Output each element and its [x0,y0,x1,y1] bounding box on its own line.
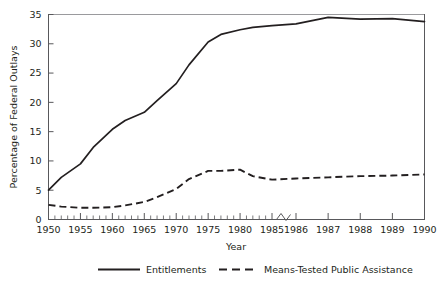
y-tick-label: 20 [29,97,41,108]
x-tick-label: 1987 [316,224,340,235]
x-axis-tick-labels: 1950195519601965197019751980198519861987… [36,224,436,235]
legend-label-means-tested: Means-Tested Public Assistance [264,264,413,275]
y-tick-label: 15 [29,126,41,137]
chart-legend: Entitlements Means-Tested Public Assista… [98,264,413,275]
x-tick-label: 1985 [260,224,284,235]
series-line-dashed [49,170,425,208]
legend-item-means-tested[interactable]: Means-Tested Public Assistance [219,264,413,275]
x-tick-label: 1986 [284,224,308,235]
line-chart: 05101520253035 1950195519601965197019751… [0,0,444,283]
data-series-layer [49,17,425,207]
x-tick-label: 1990 [412,224,436,235]
y-tick-label: 35 [29,9,41,20]
x-tick-label: 1975 [196,224,220,235]
y-axis-title: Percentage of Federal Outlays [8,45,19,188]
x-tick-label: 1980 [228,224,252,235]
y-tick-label: 5 [35,185,41,196]
y-axis-tick-labels: 05101520253035 [29,9,41,225]
y-tick-label: 10 [29,155,41,166]
chart-figure: 05101520253035 1950195519601965197019751… [0,0,444,283]
x-tick-label: 1965 [132,224,156,235]
x-tick-label: 1988 [348,224,372,235]
legend-item-entitlements[interactable]: Entitlements [98,264,206,275]
y-tick-label: 30 [29,38,41,49]
plot-frame [48,14,425,220]
y-tick-label: 25 [29,67,41,78]
series-line-solid [49,17,425,190]
x-tick-label: 1970 [164,224,188,235]
x-tick-label: 1950 [36,224,60,235]
x-axis-title: Year [225,241,246,252]
x-tick-label: 1960 [100,224,124,235]
x-tick-label: 1989 [380,224,404,235]
x-tick-label: 1955 [68,224,92,235]
x-axis-ticks [49,213,425,220]
legend-label-entitlements: Entitlements [146,264,206,275]
